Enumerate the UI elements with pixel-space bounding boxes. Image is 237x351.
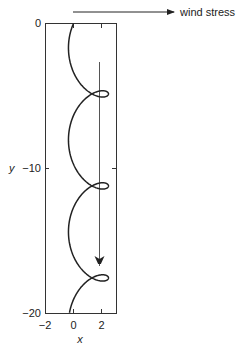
x-ticks — [74, 24, 102, 313]
x-tick-label: 2 — [98, 319, 104, 331]
wind-stress-label: wind stress — [179, 6, 236, 18]
x-tick-label: −2 — [39, 319, 52, 331]
chart-svg: wind stress −2 0 2 0 −10 −20 x y — [0, 0, 237, 351]
y-tick-label: −20 — [22, 307, 41, 319]
plot-frame — [46, 24, 117, 314]
x-tick-label: 0 — [70, 319, 76, 331]
x-axis-label: x — [76, 333, 83, 345]
y-tick-label: −10 — [22, 162, 41, 174]
trajectory-line — [68, 24, 108, 313]
y-tick-label: 0 — [35, 17, 41, 29]
y-axis-label: y — [8, 162, 16, 174]
